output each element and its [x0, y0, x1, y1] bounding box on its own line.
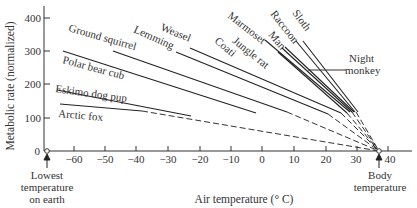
body-temp-marker: [377, 149, 382, 154]
line-raccoon: [296, 41, 355, 112]
y-tick-0: 0: [35, 145, 41, 157]
y-ticks: [44, 18, 50, 118]
y-tick-400: 400: [25, 12, 42, 24]
x-tick-m40: −40: [127, 153, 145, 165]
series-labels: Arctic fox Eskimo dog pup Polar bear cub…: [55, 7, 381, 123]
label-eskimo-dog-pup: Eskimo dog pup: [55, 82, 129, 104]
x-tick-0: 0: [259, 153, 265, 165]
x-tick-40: 40: [385, 153, 397, 165]
x-tick-20: 20: [321, 153, 333, 165]
lowest-temp-marker: [45, 149, 50, 154]
y-tick-300: 300: [25, 45, 42, 57]
data-lines: [57, 40, 358, 116]
x-tick-m10: −10: [222, 153, 240, 165]
lowest-label-1: Lowest: [31, 169, 63, 181]
y-tick-labels: 400 300 200 100 0: [25, 12, 42, 157]
x-ticks: [74, 146, 388, 151]
x-tick-labels: −60 −50 −40 −30 −20 −10 0 10 20 30 40: [65, 153, 396, 165]
label-ground-squirrel: Ground squirrel: [67, 21, 138, 52]
lowest-label-3: on earth: [29, 193, 65, 205]
x-tick-30: 30: [351, 153, 363, 165]
lowest-label-2: temperature: [21, 181, 74, 193]
label-night-monkey-1: Night: [349, 52, 374, 64]
x-tick-m30: −30: [159, 153, 177, 165]
x-tick-10: 10: [289, 153, 301, 165]
x-tick-m50: −50: [96, 153, 114, 165]
line-man: [285, 47, 354, 112]
line-lemming: [176, 52, 328, 114]
body-label-1: Body: [368, 169, 392, 181]
extrapolation-lines: [142, 111, 379, 151]
x-tick-m20: −20: [191, 153, 209, 165]
line-marmoset: [265, 40, 350, 112]
x-tick-m60: −60: [65, 153, 83, 165]
y-axis-title: Metabolic rate (normalized): [4, 21, 17, 150]
y-tick-100: 100: [25, 112, 42, 124]
label-polar-bear-cub: Polar bear cub: [61, 53, 126, 81]
body-label-2: temperature: [354, 181, 407, 193]
x-axis-title: Air temperature (° C): [195, 193, 294, 206]
metabolic-rate-chart: 400 300 200 100 0 −60 −50 −40 −30 −20 −1…: [0, 0, 417, 208]
y-tick-200: 200: [25, 78, 42, 90]
label-arctic-fox: Arctic fox: [58, 107, 104, 123]
label-night-monkey-2: monkey: [345, 64, 381, 76]
